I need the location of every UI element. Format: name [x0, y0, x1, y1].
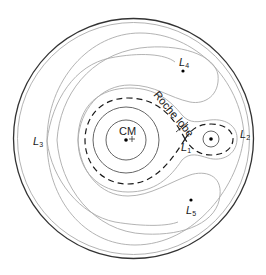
l4-point	[181, 69, 184, 72]
l2-label: L2	[240, 128, 250, 141]
l5-tadpole-contour	[57, 140, 220, 234]
l1-label: L1	[181, 141, 191, 154]
l3-label: L3	[33, 135, 43, 148]
cm-label: CM	[119, 125, 136, 137]
l2-l3-contour	[47, 33, 244, 245]
primary-star-point	[124, 138, 128, 142]
secondary-star-point	[209, 137, 213, 141]
l5-label: L5	[186, 204, 196, 217]
outer-contour-circle	[18, 23, 250, 255]
l5-point	[189, 198, 192, 201]
l4-label: L4	[179, 56, 189, 69]
l3-crossing-contour-lower	[47, 141, 178, 225]
roche-potential-diagram: CM Roche lobe L1 L2 L3 L4 L5	[0, 0, 266, 275]
l4-tadpole-contour	[57, 47, 218, 140]
